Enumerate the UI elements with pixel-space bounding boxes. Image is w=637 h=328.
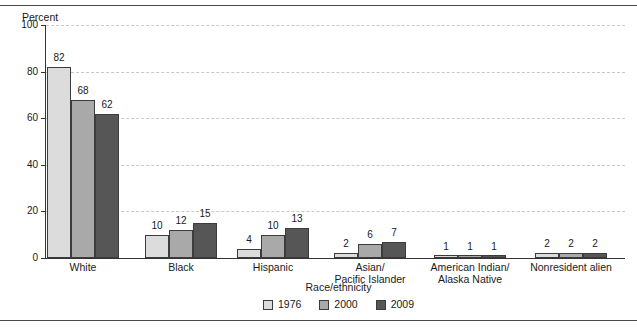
bar-value-label: 62	[89, 100, 125, 110]
legend-item: 1976	[263, 299, 301, 310]
bar	[535, 253, 559, 258]
bottom-rule	[0, 320, 637, 321]
bar-value-label: 15	[187, 209, 223, 219]
category-label: Nonresident alien	[511, 262, 631, 274]
legend-label: 1976	[278, 299, 301, 310]
bar	[285, 228, 309, 258]
bar-value-label: 13	[279, 214, 315, 224]
bar-value-label: 1	[476, 242, 512, 252]
bar	[482, 255, 506, 258]
y-tick-label: 20	[12, 206, 38, 216]
bar	[559, 253, 583, 258]
y-tick-label: 80	[12, 67, 38, 77]
bar	[434, 255, 458, 258]
bar	[237, 249, 261, 258]
bar-value-label: 82	[41, 53, 77, 63]
legend-swatch	[376, 300, 386, 310]
legend-swatch	[319, 300, 329, 310]
legend-label: 2009	[391, 299, 414, 310]
bar	[458, 255, 482, 258]
bar	[169, 230, 193, 258]
bar	[47, 67, 71, 258]
top-rule	[0, 5, 637, 6]
bars-layer: 82686210121541013267111222	[45, 25, 572, 258]
bar	[95, 114, 119, 258]
category-label-line: Nonresident alien	[511, 262, 631, 274]
chart-legend: 197620002009	[0, 299, 637, 310]
x-axis-line	[45, 258, 625, 259]
bar	[382, 242, 406, 258]
bar-value-label: 68	[65, 86, 101, 96]
bar-value-label: 7	[376, 228, 412, 238]
plot-area: 82686210121541013267111222	[45, 25, 625, 258]
bar	[193, 223, 217, 258]
bar	[583, 253, 607, 258]
legend-swatch	[263, 300, 273, 310]
legend-item: 2009	[376, 299, 414, 310]
bar	[358, 244, 382, 258]
bar	[71, 100, 95, 258]
bar	[145, 235, 169, 258]
y-tick-label: 40	[12, 160, 38, 170]
bar	[261, 235, 285, 258]
x-axis-title: Race/ethnicity	[0, 281, 637, 293]
y-tick-label: 60	[12, 113, 38, 123]
bar-value-label: 2	[577, 239, 613, 249]
legend-label: 2000	[334, 299, 357, 310]
y-tick-label: 100	[12, 20, 38, 30]
bar	[334, 253, 358, 258]
legend-item: 2000	[319, 299, 357, 310]
